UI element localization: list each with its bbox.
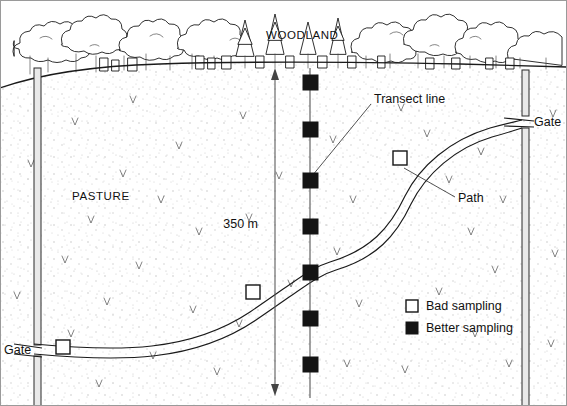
better-sampling-point[interactable]: [303, 122, 318, 137]
legend-swatch-better-sampling: [406, 322, 418, 334]
gate-left-label: Gate: [4, 343, 31, 357]
legend-label-bad-sampling: Bad sampling: [426, 299, 502, 313]
transect-sampling-diagram: Bad sampling Better sampling WOODLAND PA…: [0, 0, 567, 406]
woodland-label: WOODLAND: [266, 29, 339, 41]
gate-right-label: Gate: [534, 115, 561, 129]
better-sampling-point[interactable]: [303, 173, 318, 188]
better-sampling-point[interactable]: [303, 219, 318, 234]
legend-swatch-bad-sampling: [406, 300, 418, 312]
distance-label: 350 m: [223, 217, 258, 231]
legend-label-better-sampling: Better sampling: [426, 321, 513, 335]
better-sampling-point[interactable]: [303, 311, 318, 326]
better-sampling-point[interactable]: [303, 75, 318, 90]
pasture-label: PASTURE: [72, 190, 130, 202]
better-sampling-point[interactable]: [303, 265, 318, 280]
path-label: Path: [458, 191, 484, 205]
better-sampling-point[interactable]: [303, 357, 318, 372]
pasture-field: [0, 62, 567, 406]
diagram-canvas: Bad sampling Better sampling WOODLAND PA…: [0, 0, 567, 406]
bad-sampling-point[interactable]: [246, 285, 260, 299]
bad-sampling-point[interactable]: [393, 151, 407, 165]
transect-line-label: Transect line: [374, 92, 445, 106]
bad-sampling-point[interactable]: [56, 340, 70, 354]
